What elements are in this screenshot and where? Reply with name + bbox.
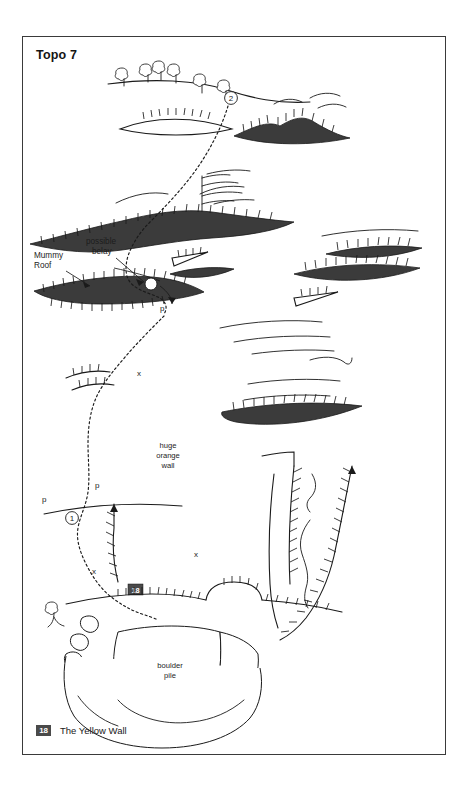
upper-left-ledge [120, 108, 232, 135]
skyline-ridge [108, 81, 310, 103]
main-dark-roof [30, 204, 294, 252]
tree-group [115, 61, 230, 99]
base-tree-icon [45, 602, 64, 627]
legend-label: The Yellow Wall [60, 725, 127, 736]
small-ledge-left [172, 247, 208, 266]
bolt-marker-upper: x [137, 369, 141, 378]
bolt-marker-group: x x x [92, 369, 198, 576]
legend-row: 18 The Yellow Wall [36, 725, 127, 736]
center-strata [220, 321, 352, 400]
bolt-marker-lower: x [194, 550, 198, 559]
pitch-1-label: 1 [70, 514, 75, 523]
route-badge-18: 18 [128, 584, 143, 595]
pendulum-marker-upper: p [160, 304, 165, 313]
huge-orange-wall-label: huge orange wall [156, 441, 180, 470]
base-ledge [66, 576, 342, 612]
boulder-pile-line2: pile [164, 671, 176, 680]
mid-left-strata [116, 170, 254, 204]
left-chevron-crack [106, 504, 118, 582]
upper-right-arcs [274, 93, 346, 108]
flake-feature [202, 175, 242, 211]
topo-page: Topo 7 [0, 0, 468, 792]
upper-dark-roof [234, 108, 350, 144]
legend-badge: 18 [36, 725, 51, 736]
right-small-wedge [294, 286, 338, 306]
right-roof-1 [326, 237, 422, 257]
lower-dark-roof [222, 394, 362, 424]
pitch-2-label: 2 [229, 94, 234, 103]
huge-orange-wall-line1: huge [160, 441, 177, 450]
pitch-1-marker: 1 [66, 512, 79, 525]
tree-icon [139, 64, 152, 82]
mummy-roof-label-line2: Roof [34, 261, 52, 270]
tree-icon [167, 64, 180, 83]
huge-orange-wall-line2: orange [156, 451, 180, 460]
tree-icon [193, 74, 206, 93]
possible-belay-line2: belay [92, 247, 112, 256]
possible-belay-line1: possible [86, 237, 116, 246]
route-badge-label: 18 [131, 586, 139, 595]
bolt-marker-mid: x [92, 567, 96, 576]
left-mid-ledge [66, 364, 114, 390]
right-roof-upper-line [322, 230, 418, 236]
belay-roof-small [170, 268, 234, 278]
pendulum-marker-lower: p [42, 495, 47, 504]
route-line[interactable] [77, 106, 228, 620]
topo-diagram: Mummy Roof possible belay [22, 36, 446, 755]
right-wavy-feature [300, 474, 315, 608]
tree-icon [152, 61, 165, 80]
huge-orange-wall-line3: wall [160, 461, 174, 470]
pitch-2-marker: 2 [225, 92, 238, 105]
pendulum-marker-mid: p [95, 481, 100, 490]
mummy-roof-label-line1: Mummy [34, 251, 64, 260]
boulder-pile-line1: boulder [157, 661, 183, 670]
right-roof-2 [294, 255, 420, 280]
